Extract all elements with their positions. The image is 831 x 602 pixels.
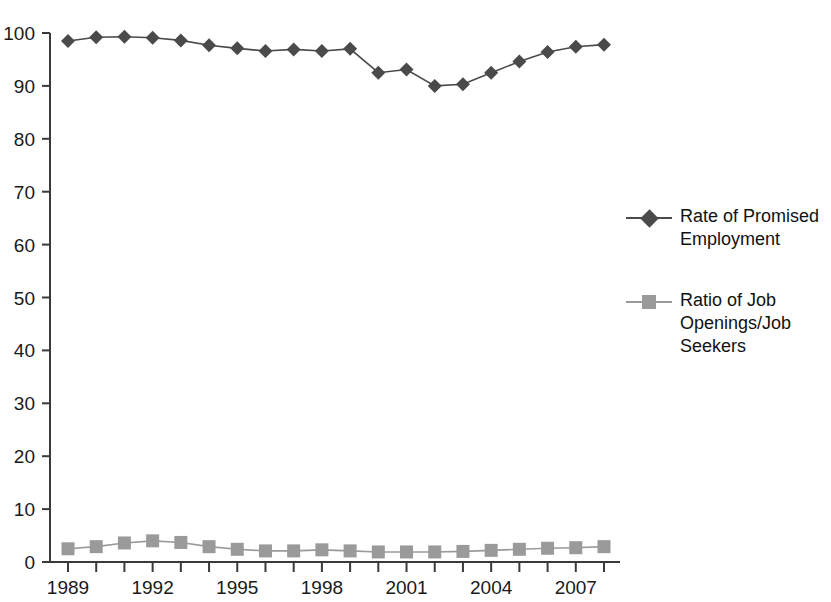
data-point-marker <box>230 41 244 55</box>
x-axis-tick-label: 2001 <box>385 577 427 598</box>
data-point-marker <box>541 45 555 59</box>
data-point-marker <box>315 543 328 556</box>
data-point-marker <box>456 77 470 91</box>
chart-container: 0102030405060708090100198919921995199820… <box>0 0 831 602</box>
data-point-marker <box>598 540 611 553</box>
data-point-marker <box>315 44 329 58</box>
chart-legend: Rate of Promised Employment Ratio of Job… <box>626 205 831 396</box>
data-point-marker <box>400 545 413 558</box>
data-point-marker <box>400 63 414 77</box>
data-point-marker <box>597 38 611 52</box>
data-point-marker <box>62 542 75 555</box>
legend-label-rate-of-promised-employment: Rate of Promised Employment <box>672 205 819 251</box>
y-axis-tick-label: 50 <box>14 288 35 309</box>
data-point-marker <box>513 543 526 556</box>
data-point-marker <box>344 544 357 557</box>
y-axis-tick-label: 90 <box>14 76 35 97</box>
data-point-marker <box>258 44 272 58</box>
data-point-marker <box>61 34 75 48</box>
data-point-marker <box>541 542 554 555</box>
x-axis-tick-label: 1989 <box>47 577 89 598</box>
legend-key-square-icon <box>626 291 672 313</box>
y-axis-tick-label: 100 <box>3 23 35 44</box>
data-point-marker <box>146 534 159 547</box>
x-axis-tick-label: 2004 <box>470 577 513 598</box>
data-point-marker <box>428 79 442 93</box>
data-point-marker <box>203 540 216 553</box>
legend-label-ratio-of-job-openings-job-seekers: Ratio of Job Openings/Job Seekers <box>672 289 791 358</box>
data-point-marker <box>90 540 103 553</box>
legend-key-diamond-icon <box>626 207 672 229</box>
data-point-marker <box>118 536 131 549</box>
data-point-marker <box>569 40 583 54</box>
data-point-marker <box>484 66 498 80</box>
y-axis-tick-label: 60 <box>14 235 35 256</box>
legend-item-rate-of-promised-employment: Rate of Promised Employment <box>626 205 831 251</box>
x-axis-tick-label: 2007 <box>555 577 597 598</box>
data-point-marker <box>287 544 300 557</box>
y-axis-tick-label: 80 <box>14 129 35 150</box>
data-point-marker <box>117 30 131 44</box>
y-axis-tick-label: 40 <box>14 340 35 361</box>
data-point-marker <box>174 33 188 47</box>
x-axis-tick-label: 1998 <box>301 577 343 598</box>
data-point-marker <box>89 30 103 44</box>
data-point-marker <box>512 55 526 69</box>
data-point-marker <box>485 544 498 557</box>
data-point-marker <box>428 545 441 558</box>
data-point-marker <box>569 541 582 554</box>
data-point-marker <box>456 545 469 558</box>
y-axis-tick-label: 0 <box>24 552 35 573</box>
y-axis-tick-label: 20 <box>14 446 35 467</box>
data-point-marker <box>372 545 385 558</box>
y-axis-tick-label: 10 <box>14 499 35 520</box>
data-point-marker <box>231 543 244 556</box>
legend-item-ratio-of-job-openings-job-seekers: Ratio of Job Openings/Job Seekers <box>626 289 831 358</box>
x-axis-tick-label: 1995 <box>216 577 258 598</box>
data-point-marker <box>287 42 301 56</box>
x-axis-tick-label: 1992 <box>131 577 173 598</box>
y-axis-tick-label: 70 <box>14 182 35 203</box>
data-point-marker <box>259 544 272 557</box>
data-point-marker <box>202 38 216 52</box>
data-point-marker <box>146 31 160 45</box>
data-point-marker <box>174 536 187 549</box>
y-axis-tick-label: 30 <box>14 393 35 414</box>
